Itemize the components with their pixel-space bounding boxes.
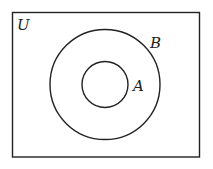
set-b-label: B [149,34,161,52]
universe-label: U [17,16,31,34]
set-a-circle [82,62,128,108]
universe-rectangle [13,13,200,158]
set-a-label: A [131,77,144,95]
venn-diagram: U B A [0,0,213,169]
